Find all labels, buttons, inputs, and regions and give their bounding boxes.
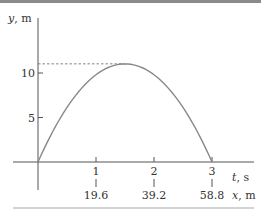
secondary-x-tick-label: 39.2 [142, 189, 167, 202]
chart-svg: y, m t, s x, m 510119.6239.2358.8 [0, 0, 261, 215]
y-tick-label: 5 [28, 112, 35, 125]
x-axis-label-time: t, s [232, 171, 249, 184]
x-tick-label: 3 [209, 165, 216, 178]
x-tick-label: 2 [151, 165, 158, 178]
plot-area [38, 64, 212, 162]
chart-figure: y, m t, s x, m 510119.6239.2358.8 [0, 0, 261, 215]
y-tick-label: 10 [21, 67, 35, 80]
x-tick-label: 1 [93, 165, 100, 178]
trajectory-curve [38, 64, 212, 162]
y-axis-label: y, m [7, 12, 32, 25]
x-axis-label-distance: x, m [232, 189, 256, 202]
secondary-x-tick-label: 58.8 [200, 189, 225, 202]
secondary-x-tick-label: 19.6 [84, 189, 109, 202]
